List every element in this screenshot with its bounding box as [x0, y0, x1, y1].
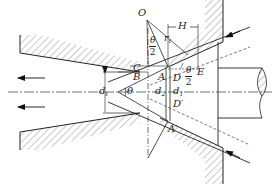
theta-half-right-num: θ — [185, 66, 192, 77]
label-rt: rt — [164, 33, 171, 44]
label-B: B — [133, 72, 140, 82]
label-theta: θ — [127, 86, 133, 96]
theta-half-top-den: 2 — [149, 47, 156, 57]
lower-chord — [148, 121, 168, 158]
theta-half-top-num: θ — [149, 36, 156, 47]
label-A: A — [158, 72, 165, 82]
radius-line-OC — [147, 20, 148, 64]
lower-incoming-line — [108, 102, 250, 163]
left-die-upper — [20, 35, 140, 72]
right-die-upper — [168, 0, 223, 67]
label-D: D — [173, 73, 181, 83]
label-dt-sub: t — [105, 90, 107, 97]
label-theta-half-top: θ 2 — [149, 36, 156, 57]
upper-right-arrow — [226, 31, 240, 37]
theta-half-arc — [180, 63, 183, 69]
label-D-prime: D′ — [173, 99, 183, 109]
die-geometry-diagram: O rt H θ 2 C B A D θ 2 E dt θ d2 d1 D′ A… — [0, 0, 277, 184]
lower-right-arrow — [226, 151, 240, 158]
label-d2-sub: 2 — [161, 90, 165, 97]
label-A-prime: A′ — [168, 124, 178, 134]
label-d1-sub: 1 — [179, 90, 183, 97]
label-dt: dt — [99, 86, 108, 97]
label-O: O — [138, 8, 146, 18]
label-E: E — [197, 67, 204, 77]
theta-half-right-den: 2 — [185, 77, 192, 87]
label-H: H — [178, 21, 187, 31]
label-d2: d2 — [155, 86, 165, 97]
diagram-canvas — [0, 0, 277, 184]
label-r-sub: t — [169, 37, 171, 44]
left-die-lower — [20, 113, 140, 150]
label-theta-half-right: θ 2 — [185, 66, 192, 87]
wire-billet — [218, 42, 267, 146]
label-d1: d1 — [173, 86, 183, 97]
